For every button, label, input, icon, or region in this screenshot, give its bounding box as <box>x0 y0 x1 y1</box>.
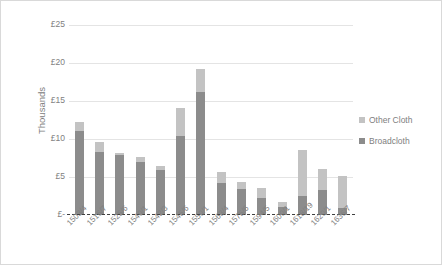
bar-segment-other-cloth[interactable] <box>95 142 104 152</box>
legend-swatch-icon <box>359 138 365 144</box>
chart-legend: Other ClothBroadcloth <box>359 115 441 157</box>
bar-1503-4[interactable] <box>75 122 84 215</box>
y-tick-label: £15 <box>29 96 65 105</box>
legend-swatch-icon <box>359 117 365 123</box>
gridline <box>69 101 353 102</box>
bar-segment-other-cloth[interactable] <box>176 108 185 136</box>
gridline <box>69 63 353 64</box>
bar-1550-1[interactable] <box>196 69 205 215</box>
bar-segment-broadcloth[interactable] <box>75 131 84 215</box>
gridline <box>69 25 353 26</box>
y-tick-label: £5 <box>29 172 65 181</box>
bar-1545-6[interactable] <box>176 108 185 215</box>
bar-segment-other-cloth[interactable] <box>318 169 327 190</box>
y-tick-label: £20 <box>29 58 65 67</box>
bar-segment-other-cloth[interactable] <box>75 122 84 130</box>
legend-label: Other Cloth <box>369 115 412 125</box>
gridline <box>69 177 353 178</box>
bar-segment-other-cloth[interactable] <box>257 188 266 198</box>
y-tick-label: £10 <box>29 134 65 143</box>
y-tick-label: £25 <box>29 20 65 29</box>
gridline <box>69 139 353 140</box>
legend-item-broadcloth[interactable]: Broadcloth <box>359 136 441 146</box>
bar-segment-other-cloth[interactable] <box>196 69 205 92</box>
x-axis: 1503/41516/71525/61540/11542/31545/61550… <box>1 217 442 265</box>
bar-segment-other-cloth[interactable] <box>298 150 307 196</box>
bar-segment-other-cloth[interactable] <box>217 172 226 183</box>
plot-area <box>69 25 353 215</box>
legend-item-other-cloth[interactable]: Other Cloth <box>359 115 441 125</box>
bar-segment-broadcloth[interactable] <box>196 92 205 215</box>
legend-label: Broadcloth <box>369 136 410 146</box>
bar-segment-other-cloth[interactable] <box>237 182 246 190</box>
chart-container: Thousands £-£5£10£15£20£25 1503/41516/71… <box>0 0 442 265</box>
